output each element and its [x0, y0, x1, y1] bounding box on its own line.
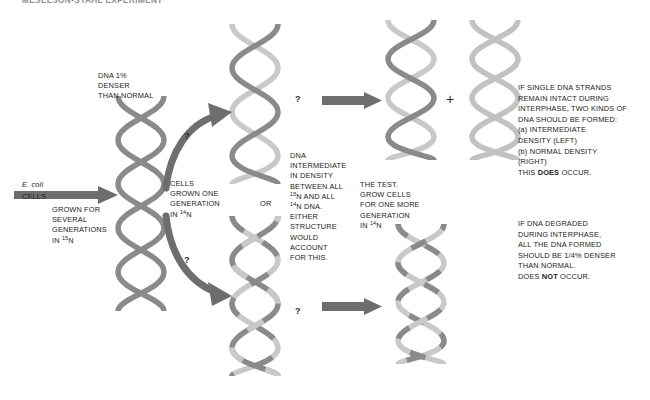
helix-gen2-light — [466, 20, 524, 160]
the-test-tail: N — [376, 221, 382, 230]
dispersive-tail: OCCUR. — [558, 272, 590, 281]
cells-one-gen-tail: N — [186, 210, 192, 219]
question-mark-gen2-top: ? — [295, 94, 301, 104]
arrow-gen1-top-to-gen2 — [322, 92, 382, 110]
grown-several-body: GROWN FOR SEVERAL GENERATIONS IN — [52, 205, 107, 245]
helix-gen1-dispersive-bottom — [226, 216, 284, 376]
question-mark-branch-top: ? — [184, 131, 190, 141]
ecoli-species-name: E. coli — [22, 180, 43, 189]
grown-several-tail: N — [68, 236, 74, 245]
semiconservative-emphasis: DOES — [538, 168, 560, 177]
helix-gen2-dispersive — [392, 224, 450, 364]
label-cells-grown-one-generation: CELLS GROWN ONE GENERATION IN 14N — [170, 179, 220, 220]
figure-canvas: MESELSON-STAHL EXPERIMENT — [0, 0, 650, 400]
arrow-gen1-bottom-to-gen2 — [322, 298, 382, 316]
figure-title-strip: MESELSON-STAHL EXPERIMENT — [22, 0, 163, 5]
label-dna-denser: DNA 1% DENSER THAN NORMAL — [98, 71, 153, 102]
conclusion-semiconservative: IF SINGLE DNA STRANDS REMAIN INTACT DURI… — [518, 83, 627, 178]
dispersive-emphasis: NOT — [542, 272, 558, 281]
cells-one-gen-body: CELLS GROWN ONE GENERATION IN — [170, 179, 220, 219]
label-dna-intermediate-density: DNA INTERMEDIATE IN DENSITY BETWEEN ALL … — [290, 151, 346, 263]
intermediate-tail: N DNA. EITHER STRUCTURE WOULD ACCOUNT FO… — [290, 202, 337, 262]
label-grown-several-generations: GROWN FOR SEVERAL GENERATIONS IN 15N — [52, 205, 107, 246]
helix-gen2-hybrid — [382, 20, 440, 160]
conclusion-dispersive: IF DNA DEGRADED DURING INTERPHASE, ALL T… — [518, 219, 616, 283]
semiconservative-tail: OCCUR. — [559, 168, 591, 177]
label-ecoli-italic: E. coli — [22, 180, 43, 190]
question-mark-gen2-bottom: ? — [295, 306, 301, 316]
question-mark-branch-bottom: ? — [184, 255, 190, 265]
intermediate-body: DNA INTERMEDIATE IN DENSITY BETWEEN ALL — [290, 151, 346, 191]
arrow-parent-to-gen1-bottom — [160, 212, 234, 308]
plus-sign: + — [446, 91, 454, 107]
label-ecoli-cells: CELLS — [22, 192, 46, 202]
label-or: OR — [260, 199, 272, 208]
semiconservative-body: IF SINGLE DNA STRANDS REMAIN INTACT DURI… — [518, 83, 627, 177]
helix-gen1-hybrid-top — [226, 24, 284, 184]
label-the-test: THE TEST. GROW CELLS FOR ONE MORE GENERA… — [360, 180, 420, 231]
intermediate-mid: N AND ALL — [296, 192, 335, 201]
